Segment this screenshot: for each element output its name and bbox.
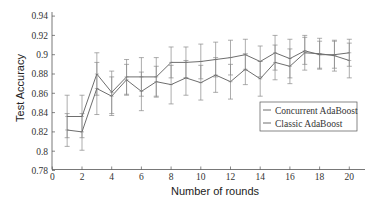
y-tick-label: 0.84 bbox=[31, 108, 48, 118]
x-tick-label: 16 bbox=[285, 172, 295, 182]
chart: 0.780.80.820.840.860.880.90.920.94 02468… bbox=[0, 0, 381, 203]
x-tick-label: 14 bbox=[255, 172, 265, 182]
legend: Concurrent AdaBoost Classic AdaBoost bbox=[260, 102, 358, 131]
y-tick-label: 0.86 bbox=[31, 89, 48, 99]
x-tick-label: 20 bbox=[345, 172, 355, 182]
y-tick-label: 0.92 bbox=[31, 31, 48, 41]
x-tick-label: 0 bbox=[50, 172, 55, 182]
x-axis-title: Number of rounds bbox=[171, 185, 260, 197]
axes: 0.780.80.820.840.860.880.90.920.94 02468… bbox=[31, 11, 365, 182]
y-tick-label: 0.78 bbox=[31, 166, 48, 176]
x-tick-label: 8 bbox=[169, 172, 174, 182]
x-tick-label: 4 bbox=[109, 172, 114, 182]
legend-label-classic: Classic AdaBoost bbox=[275, 119, 343, 129]
y-tick-label: 0.82 bbox=[31, 127, 48, 137]
x-tick-label: 18 bbox=[315, 172, 325, 182]
legend-label-concurrent: Concurrent AdaBoost bbox=[275, 106, 358, 116]
y-axis-title: Test Accuracy bbox=[14, 54, 26, 122]
x-ticks: 02468101214161820 bbox=[50, 167, 354, 183]
x-tick-label: 6 bbox=[139, 172, 144, 182]
y-tick-label: 0.8 bbox=[36, 147, 48, 157]
y-tick-label: 0.94 bbox=[31, 11, 48, 21]
y-tick-label: 0.88 bbox=[31, 69, 48, 79]
y-tick-label: 0.9 bbox=[36, 50, 48, 60]
y-ticks: 0.780.80.820.840.860.880.90.920.94 bbox=[31, 11, 55, 175]
x-tick-label: 2 bbox=[80, 172, 85, 182]
x-tick-label: 12 bbox=[226, 172, 236, 182]
x-tick-label: 10 bbox=[196, 172, 206, 182]
